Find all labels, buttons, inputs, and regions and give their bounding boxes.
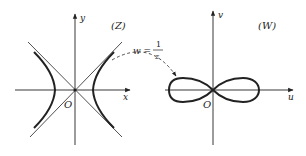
mapping-annotation: w = 1 z — [112, 40, 176, 76]
mapping-denominator: z — [154, 52, 160, 61]
v-axis-label: v — [218, 10, 223, 20]
mapping-lhs: w = — [133, 46, 151, 56]
z-plane-panel: O x y (Z) — [15, 13, 130, 145]
u-axis-label: u — [288, 92, 294, 102]
origin-label-w: O — [203, 99, 211, 110]
w-plane-panel: O u v (W) — [165, 10, 294, 145]
w-plane-label: (W) — [258, 20, 276, 31]
conformal-mapping-diagram: O x y (Z) w = 1 z O u v (W) — [0, 0, 306, 156]
x-axis-label: x — [123, 92, 128, 102]
origin-label: O — [64, 99, 72, 110]
z-plane-label: (Z) — [111, 20, 126, 31]
y-axis-label: y — [79, 13, 86, 23]
mapping-numerator: 1 — [156, 40, 161, 49]
origin-dot — [73, 88, 76, 91]
